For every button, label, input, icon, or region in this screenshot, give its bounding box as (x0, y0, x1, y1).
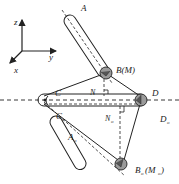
label-D: D (151, 88, 159, 98)
svg-text:N: N (104, 114, 111, 123)
z-label: z (13, 17, 18, 27)
svg-text:): ) (160, 165, 164, 175)
mechanism-diagram: z y x (0, 0, 179, 184)
joint-Bo (115, 158, 127, 170)
joint-B (100, 67, 112, 79)
label-N: N (89, 88, 96, 97)
coordinate-axes: z y x (10, 17, 56, 75)
right-angle-N (104, 90, 108, 94)
svg-text:A: A (67, 132, 74, 142)
x-axis (10, 51, 22, 63)
label-B: B(M) (116, 65, 135, 75)
label-Ao: A o (67, 132, 77, 143)
joint-D (135, 94, 147, 106)
label-A: A (80, 3, 87, 13)
label-Do: D o (159, 114, 170, 125)
svg-text:o: o (167, 120, 170, 125)
label-C: C (55, 88, 62, 98)
y-label: y (48, 52, 53, 62)
svg-text:o: o (141, 171, 144, 176)
label-No: N o (104, 114, 114, 124)
label-Co: C o (56, 111, 65, 122)
svg-text:o: o (111, 119, 114, 124)
svg-text:(M: (M (145, 165, 156, 175)
svg-text:D: D (159, 114, 167, 124)
right-angle-No (120, 106, 124, 112)
x-label: x (13, 65, 18, 75)
label-Bo: B o (M o ) (135, 165, 164, 176)
svg-text:o: o (74, 138, 77, 143)
